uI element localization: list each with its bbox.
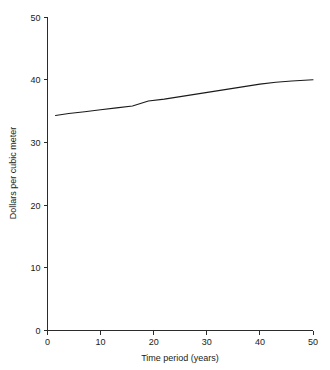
x-tick-label: 30 bbox=[202, 337, 212, 347]
y-tick-label: 0 bbox=[35, 326, 40, 336]
x-tick-label: 50 bbox=[308, 337, 318, 347]
chart-container: 01020304050 Dollars per cubic meter 0102… bbox=[0, 0, 330, 370]
x-axis-title: Time period (years) bbox=[141, 353, 219, 363]
chart-background bbox=[0, 0, 330, 370]
y-axis-title: Dollars per cubic meter bbox=[8, 127, 18, 220]
y-tick-label: 10 bbox=[30, 263, 40, 273]
x-tick-label: 20 bbox=[149, 337, 159, 347]
y-tick-label: 30 bbox=[30, 138, 40, 148]
line-chart: 01020304050 Dollars per cubic meter 0102… bbox=[0, 0, 330, 370]
x-tick-label: 0 bbox=[45, 337, 50, 347]
x-tick-label: 10 bbox=[96, 337, 106, 347]
y-tick-label: 20 bbox=[30, 201, 40, 211]
x-tick-label: 40 bbox=[255, 337, 265, 347]
y-tick-label: 50 bbox=[30, 13, 40, 23]
y-tick-label: 40 bbox=[30, 75, 40, 85]
